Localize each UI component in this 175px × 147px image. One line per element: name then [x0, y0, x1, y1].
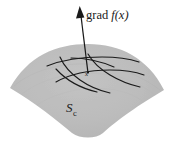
gradient-level-surface-figure: gradf(x) Sc x [0, 0, 175, 147]
figure-canvas [0, 0, 175, 147]
tangent-point-marker [87, 71, 89, 73]
gradient-arrow-head [76, 6, 84, 19]
